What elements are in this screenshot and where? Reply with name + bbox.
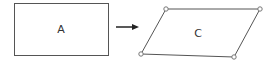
label-a: A — [57, 23, 65, 36]
transform-diagram: A C — [0, 0, 275, 66]
arrow-icon — [116, 24, 139, 30]
label-c: C — [194, 27, 202, 40]
vertex-marker — [258, 7, 262, 11]
vertex-marker — [232, 55, 236, 59]
vertex-marker — [139, 52, 143, 56]
vertex-marker — [164, 7, 168, 11]
